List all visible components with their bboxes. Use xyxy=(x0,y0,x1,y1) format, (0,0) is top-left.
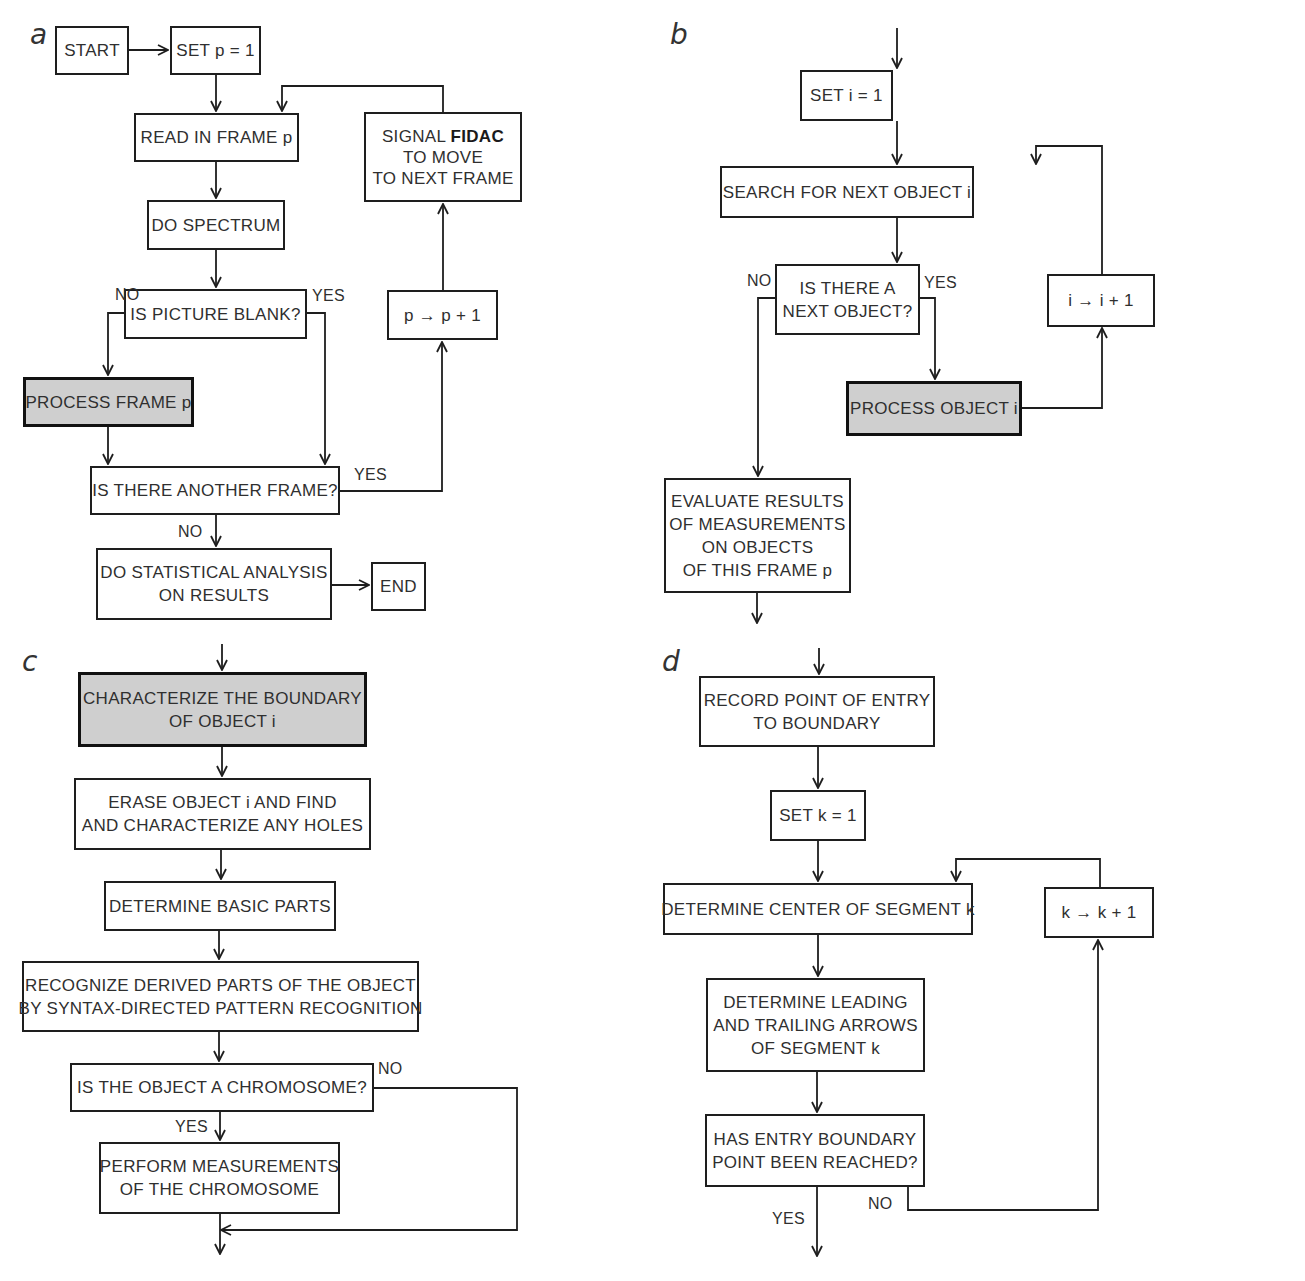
record-entry-box: RECORD POINT OF ENTRY TO BOUNDARY xyxy=(699,676,935,747)
leading-line3: OF SEGMENT k xyxy=(751,1037,880,1060)
leading-line1: DETERMINE LEADING xyxy=(723,991,908,1014)
blank-no-label: NO xyxy=(115,286,140,304)
process-object-box: PROCESS OBJECT i xyxy=(846,381,1022,436)
process-frame-text: PROCESS FRAME p xyxy=(25,391,191,414)
do-spectrum-text: DO SPECTRUM xyxy=(152,214,281,237)
search-object-text: SEARCH FOR NEXT OBJECT i xyxy=(723,181,971,204)
stats-line1: DO STATISTICAL ANALYSIS xyxy=(100,561,327,584)
statistical-analysis-box: DO STATISTICAL ANALYSIS ON RESULTS xyxy=(96,548,332,620)
measure-line1: PERFORM MEASUREMENTS xyxy=(100,1155,339,1178)
panel-label-d: d xyxy=(662,645,680,678)
evaluate-results-box: EVALUATE RESULTS OF MEASUREMENTS ON OBJE… xyxy=(664,478,851,593)
evaluate-line4: OF THIS FRAME p xyxy=(683,559,833,582)
next-object-decision: IS THERE A NEXT OBJECT? xyxy=(775,264,920,335)
another-yes-label: YES xyxy=(354,466,387,484)
record-line1: RECORD POINT OF ENTRY xyxy=(704,689,931,712)
arrow-increment-loop-to-center xyxy=(956,859,1100,887)
read-frame-text: READ IN FRAME p xyxy=(141,126,293,149)
evaluate-line3: ON OBJECTS xyxy=(702,536,814,559)
set-k-box: SET k = 1 xyxy=(770,790,866,841)
next-no-label: NO xyxy=(747,272,772,290)
characterize-line1: CHARACTERIZE THE BOUNDARY xyxy=(83,687,362,710)
set-p-box: SET p = 1 xyxy=(170,26,261,75)
chromosome-yes-label: YES xyxy=(175,1118,208,1136)
basic-parts-text: DETERMINE BASIC PARTS xyxy=(109,895,331,918)
recognize-line1: RECOGNIZE DERIVED PARTS OF THE OBJECT xyxy=(25,974,416,997)
basic-parts-box: DETERMINE BASIC PARTS xyxy=(104,881,336,931)
leading-line2: AND TRAILING ARROWS xyxy=(713,1014,918,1037)
perform-measurements-box: PERFORM MEASUREMENTS OF THE CHROMOSOME xyxy=(99,1142,340,1214)
measure-line2: OF THE CHROMOSOME xyxy=(120,1178,319,1201)
set-k-text: SET k = 1 xyxy=(779,804,857,827)
recognize-line2: BY SYNTAX-DIRECTED PATTERN RECOGNITION xyxy=(19,997,423,1020)
increment-p-box: p → p + 1 xyxy=(387,290,498,340)
do-spectrum-box: DO SPECTRUM xyxy=(147,200,285,250)
entry-reached-decision: HAS ENTRY BOUNDARY POINT BEEN REACHED? xyxy=(705,1114,925,1187)
signal-fidac-box: SIGNAL FIDAC TO MOVE TO NEXT FRAME xyxy=(364,112,522,202)
end-box: END xyxy=(371,562,426,611)
arrow-next-yes-to-process xyxy=(920,298,935,379)
reached-line2: POINT BEEN REACHED? xyxy=(712,1151,918,1174)
read-frame-box: READ IN FRAME p xyxy=(134,113,299,162)
center-segment-box: DETERMINE CENTER OF SEGMENT k xyxy=(663,883,973,935)
arrow-increment-loop-to-search xyxy=(1036,146,1102,274)
reached-no-label: NO xyxy=(868,1195,893,1213)
reached-yes-label: YES xyxy=(772,1210,805,1228)
erase-line1: ERASE OBJECT i AND FIND xyxy=(108,791,337,814)
panel-label-b: b xyxy=(670,18,688,51)
increment-k-text: k → k + 1 xyxy=(1062,901,1137,924)
set-p-text: SET p = 1 xyxy=(176,39,254,62)
increment-k-box: k → k + 1 xyxy=(1044,887,1154,938)
increment-i-text: i → i + 1 xyxy=(1068,289,1134,312)
arrow-signal-loop-to-read xyxy=(282,86,443,112)
signal-fidac-line3: TO NEXT FRAME xyxy=(372,168,513,189)
signal-fidac-line2: TO MOVE xyxy=(403,147,483,168)
characterize-line2: OF OBJECT i xyxy=(169,710,276,733)
another-no-label: NO xyxy=(178,523,203,541)
leading-trailing-box: DETERMINE LEADING AND TRAILING ARROWS OF… xyxy=(706,978,925,1072)
center-segment-text: DETERMINE CENTER OF SEGMENT k xyxy=(661,898,974,921)
set-i-text: SET i = 1 xyxy=(810,84,883,107)
picture-blank-decision: IS PICTURE BLANK? xyxy=(124,289,307,339)
process-frame-box: PROCESS FRAME p xyxy=(23,377,194,427)
characterize-boundary-box: CHARACTERIZE THE BOUNDARY OF OBJECT i xyxy=(78,672,367,747)
arrow-process-to-increment xyxy=(1022,328,1102,408)
recognize-parts-box: RECOGNIZE DERIVED PARTS OF THE OBJECT BY… xyxy=(22,961,419,1032)
evaluate-line1: EVALUATE RESULTS xyxy=(671,490,844,513)
is-chromosome-decision: IS THE OBJECT A CHROMOSOME? xyxy=(70,1063,374,1112)
panel-label-c: c xyxy=(22,645,37,678)
signal-text: SIGNAL xyxy=(382,127,451,146)
next-object-line1: IS THERE A xyxy=(799,277,895,300)
stats-line2: ON RESULTS xyxy=(159,584,269,607)
start-text: START xyxy=(64,39,120,62)
erase-object-box: ERASE OBJECT i AND FIND AND CHARACTERIZE… xyxy=(74,778,371,850)
arrow-reached-no-to-increment xyxy=(908,940,1098,1210)
next-object-line2: NEXT OBJECT? xyxy=(783,300,913,323)
fidac-text: FIDAC xyxy=(451,127,504,146)
set-i-box: SET i = 1 xyxy=(800,70,893,121)
record-line2: TO BOUNDARY xyxy=(753,712,880,735)
increment-i-box: i → i + 1 xyxy=(1047,274,1155,327)
arrow-blank-no-to-process xyxy=(108,313,124,375)
increment-p-text: p → p + 1 xyxy=(404,304,481,327)
end-text: END xyxy=(380,575,417,598)
signal-fidac-line1: SIGNAL FIDAC xyxy=(382,126,504,147)
erase-line2: AND CHARACTERIZE ANY HOLES xyxy=(82,814,363,837)
panel-label-a: a xyxy=(30,18,47,51)
blank-yes-label: YES xyxy=(312,287,345,305)
another-frame-decision: IS THERE ANOTHER FRAME? xyxy=(90,466,340,515)
picture-blank-text: IS PICTURE BLANK? xyxy=(130,303,300,326)
is-chromosome-text: IS THE OBJECT A CHROMOSOME? xyxy=(77,1076,367,1099)
evaluate-line2: OF MEASUREMENTS xyxy=(669,513,845,536)
arrow-next-no-to-evaluate xyxy=(758,298,775,476)
search-object-box: SEARCH FOR NEXT OBJECT i xyxy=(720,166,974,218)
another-frame-text: IS THERE ANOTHER FRAME? xyxy=(92,479,338,502)
arrow-blank-yes-to-another xyxy=(307,313,325,464)
next-yes-label: YES xyxy=(924,274,957,292)
reached-line1: HAS ENTRY BOUNDARY xyxy=(714,1128,917,1151)
process-object-text: PROCESS OBJECT i xyxy=(850,397,1018,420)
start-box: START xyxy=(55,26,129,75)
chromosome-no-label: NO xyxy=(378,1060,403,1078)
